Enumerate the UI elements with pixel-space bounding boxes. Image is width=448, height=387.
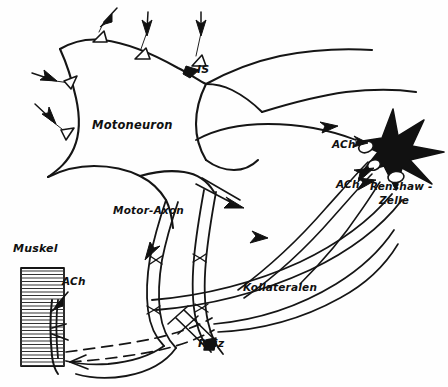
label-ach-upper: ACh — [331, 138, 356, 150]
renshaw-circuit-diagram: Motoneuron IS Motor-Axon Kollateralen Re… — [0, 0, 448, 387]
diagram-labels: Motoneuron IS Motor-Axon Kollateralen Re… — [13, 63, 432, 350]
bouton — [93, 22, 107, 42]
muscle — [21, 268, 68, 374]
afferent-dashed-line — [66, 318, 214, 362]
motoneuron-cell-body — [48, 39, 416, 228]
label-motor-axon: Motor-Axon — [113, 204, 184, 216]
kollateralen — [152, 194, 402, 332]
input-arrow — [32, 70, 57, 81]
neuroanatomy-figure: Motoneuron IS Motor-Axon Kollateralen Re… — [0, 0, 448, 387]
label-initial-segment: IS — [197, 63, 209, 76]
label-muskel: Muskel — [13, 242, 58, 255]
input-arrow — [142, 12, 152, 36]
label-reiz: Reiz — [198, 337, 225, 350]
label-motoneuron: Motoneuron — [92, 118, 173, 132]
label-ach-lower: ACh — [335, 178, 360, 190]
input-arrow — [100, 8, 117, 27]
input-arrows — [32, 8, 206, 124]
label-renshaw-cell-line2: Zelle — [378, 194, 409, 206]
bouton — [135, 32, 150, 59]
label-renshaw-cell-line1: Renshaw - — [370, 180, 432, 192]
bouton — [192, 33, 206, 66]
input-arrow — [35, 104, 56, 124]
label-ach-muscle: ACh — [61, 275, 86, 287]
input-arrow — [196, 12, 206, 36]
label-kollateralen: Kollateralen — [243, 281, 317, 293]
